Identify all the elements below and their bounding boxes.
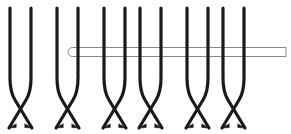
figure-background [0, 0, 291, 134]
braid-diagram-figure [0, 0, 291, 134]
needle-layer [68, 48, 286, 57]
braid-canvas [0, 0, 291, 134]
horizontal-rod [68, 48, 286, 57]
